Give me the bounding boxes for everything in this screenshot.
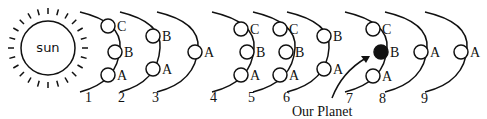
diagram-8-moons: C B A: [366, 22, 399, 84]
svg-text:B: B: [162, 29, 171, 44]
svg-text:B: B: [390, 45, 399, 60]
svg-text:C: C: [382, 22, 391, 37]
svg-text:C: C: [289, 22, 298, 37]
diagram-numbers: 1 2 3 4 5 6 7 8 9: [85, 90, 428, 106]
svg-text:A: A: [289, 68, 300, 83]
orbit-arcs: [80, 12, 467, 92]
svg-text:B: B: [256, 45, 265, 60]
our-planet-filled: [374, 45, 388, 59]
svg-text:B: B: [124, 45, 133, 60]
svg-text:C: C: [117, 19, 126, 34]
svg-text:C: C: [250, 22, 259, 37]
svg-text:B: B: [295, 45, 304, 60]
diagram-6-moons: C B A: [273, 22, 304, 83]
svg-text:9: 9: [421, 91, 428, 106]
svg-text:8: 8: [379, 91, 386, 106]
svg-text:6: 6: [283, 90, 290, 105]
svg-text:3: 3: [152, 90, 159, 105]
svg-text:4: 4: [210, 90, 217, 105]
svg-text:1: 1: [85, 90, 92, 105]
svg-text:2: 2: [118, 90, 125, 105]
sun-label: sun: [36, 40, 59, 55]
sun: sun: [8, 8, 88, 88]
solar-system-diagram: sun C B A B A A C B A: [0, 0, 487, 119]
diagram-5-moons: C B A: [234, 22, 265, 83]
diagram-3-moons: A: [188, 45, 215, 60]
diagram-1-moons: C B A: [101, 19, 133, 83]
svg-text:A: A: [204, 45, 215, 60]
svg-text:A: A: [162, 62, 173, 77]
svg-text:A: A: [382, 69, 393, 84]
svg-text:A: A: [333, 62, 344, 77]
our-planet-label: Our Planet: [292, 104, 352, 119]
svg-text:B: B: [333, 29, 342, 44]
svg-text:A: A: [470, 45, 481, 60]
svg-text:A: A: [250, 68, 261, 83]
diagram-7-moons: B A: [317, 29, 344, 77]
svg-text:A: A: [117, 68, 128, 83]
svg-text:5: 5: [248, 90, 255, 105]
svg-text:A: A: [430, 45, 441, 60]
